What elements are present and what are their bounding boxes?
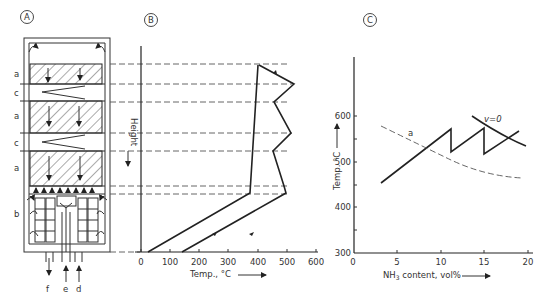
label-quench-1: c [14, 88, 19, 98]
label-quench-2: c [14, 138, 19, 148]
catalyst-bed-3 [30, 151, 102, 186]
bottom-pipes [46, 252, 82, 282]
svg-text:10: 10 [436, 257, 447, 267]
c-y-label: Temp. °C [332, 152, 342, 191]
svg-text:300: 300 [335, 248, 351, 258]
level-lines [110, 64, 292, 252]
label-catalyst-bed-2: a [14, 111, 19, 121]
svg-text:200: 200 [191, 257, 207, 267]
svg-text:400: 400 [335, 202, 351, 212]
quench-zone-2 [42, 135, 85, 149]
svg-text:600: 600 [308, 257, 324, 267]
label-catalyst-bed-1: a [14, 69, 19, 79]
svg-text:300: 300 [220, 257, 236, 267]
svg-text:100: 100 [162, 257, 178, 267]
c-x-label: NH3 content, vol% [383, 270, 461, 281]
badge-b: B [148, 15, 154, 25]
svg-text:15: 15 [479, 257, 490, 267]
quench-zone-1 [42, 86, 85, 99]
panel-a-reactor: A [14, 11, 139, 295]
c-curve-v0-label: v=0 [484, 114, 502, 124]
label-heat-exchanger: b [14, 209, 19, 219]
figure-canvas: A [0, 0, 548, 298]
grid-arrows [36, 188, 92, 193]
svg-text:0: 0 [138, 257, 143, 267]
badge-a: A [24, 12, 30, 22]
panel-b-chart: B 0 100 200 300 400 500 600 Temp., °C [135, 14, 324, 280]
svg-text:500: 500 [279, 257, 295, 267]
label-inlet-e: e [63, 284, 68, 294]
b-x-label: Temp., °C [189, 269, 231, 279]
height-label: Height [129, 118, 139, 147]
panel-c-chart: C 600 500 400 300 0 5 10 15 20 NH3 conte… [332, 14, 533, 282]
catalyst-bed-2 [30, 101, 102, 133]
c-curve-a-label: a [408, 128, 413, 138]
badge-c: C [367, 15, 373, 25]
label-inlet-d: d [76, 284, 81, 294]
svg-text:600: 600 [335, 111, 351, 121]
catalyst-bed-1 [30, 64, 102, 84]
label-catalyst-bed-3: a [14, 163, 19, 173]
b-curve-cold [148, 65, 258, 252]
svg-text:20: 20 [523, 257, 534, 267]
label-outlet-f: f [46, 284, 50, 294]
b-curve-bed [182, 65, 294, 252]
svg-text:5: 5 [394, 257, 399, 267]
svg-text:0: 0 [350, 257, 355, 267]
svg-text:400: 400 [250, 257, 266, 267]
